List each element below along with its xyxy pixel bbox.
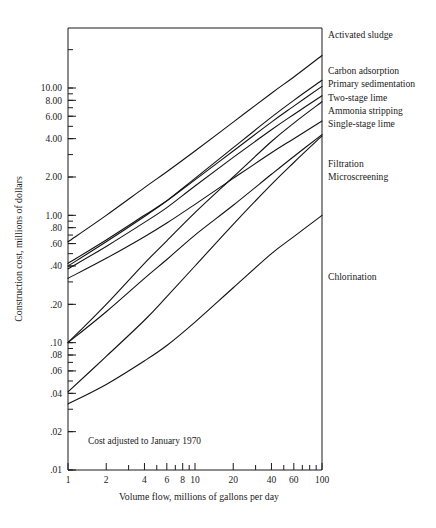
y-tick-label: .01 bbox=[50, 465, 62, 475]
y-tick-label: 6.00 bbox=[45, 112, 62, 122]
series-label-activated-sludge: Activated sludge bbox=[328, 29, 393, 40]
series-label-filtration: Filtration bbox=[328, 158, 364, 169]
x-tick-label: 8 bbox=[180, 475, 185, 485]
x-tick-label: 2 bbox=[104, 475, 109, 485]
x-tick-label: 6 bbox=[164, 475, 169, 485]
series-label-ammonia-stripping: Ammonia stripping bbox=[328, 105, 403, 116]
y-tick-label: 4.00 bbox=[45, 134, 62, 144]
series-label-primary-sedimentation: Primary sedimentation bbox=[328, 78, 415, 89]
x-axis-title: Volume flow, millions of gallons per day bbox=[119, 491, 279, 502]
x-tick-label: 60 bbox=[289, 475, 299, 485]
y-axis-title: Construction cost, millions of dollars bbox=[13, 176, 24, 322]
x-tick-label: 20 bbox=[228, 475, 238, 485]
y-tick-label: 2.00 bbox=[45, 172, 62, 182]
x-tick-label: 100 bbox=[315, 475, 330, 485]
series-label-chlorination: Chlorination bbox=[328, 271, 377, 282]
y-tick-label: .80 bbox=[50, 223, 62, 233]
y-tick-label: .40 bbox=[50, 261, 62, 271]
y-tick-label: 8.00 bbox=[45, 96, 62, 106]
y-tick-label: 1.00 bbox=[45, 211, 62, 221]
x-tick-label: 4 bbox=[142, 475, 147, 485]
y-tick-label: .02 bbox=[50, 427, 62, 437]
x-tick-label: 40 bbox=[267, 475, 277, 485]
series-label-single-stage-lime: Single-stage lime bbox=[328, 118, 395, 129]
x-tick-label: 1 bbox=[66, 475, 71, 485]
series-label-carbon-adsorption: Carbon adsorption bbox=[328, 65, 399, 76]
y-tick-label: .04 bbox=[50, 389, 62, 399]
x-tick-label: 10 bbox=[190, 475, 200, 485]
y-tick-label: 10.00 bbox=[41, 83, 63, 93]
y-tick-label: .08 bbox=[50, 350, 62, 360]
construction-cost-log-log-chart: 10.008.006.004.002.001.00.80.60.40.20.10… bbox=[0, 0, 436, 528]
x-axis-tick-labels: 1246810204060100 bbox=[66, 475, 330, 485]
cost-adjustment-note: Cost adjusted to January 1970 bbox=[88, 436, 201, 446]
y-tick-label: .20 bbox=[50, 300, 62, 310]
y-tick-label: .60 bbox=[50, 239, 62, 249]
series-label-microscreening: Microscreening bbox=[328, 171, 388, 182]
y-tick-label: .10 bbox=[50, 338, 62, 348]
chart-page: 10.008.006.004.002.001.00.80.60.40.20.10… bbox=[0, 0, 436, 528]
y-tick-label: .06 bbox=[50, 366, 62, 376]
series-label-two-stage-lime: Two-stage lime bbox=[328, 92, 387, 103]
